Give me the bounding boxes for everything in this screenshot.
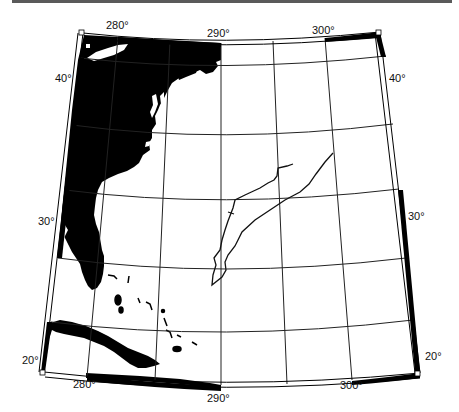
lat-label-right-40: 40°	[389, 72, 406, 84]
lon-label-bottom-290: 290°	[207, 392, 230, 404]
bahamas-islands	[108, 275, 197, 352]
map-canvas	[0, 0, 459, 412]
lon-label-top-290: 290°	[207, 27, 230, 39]
lon-label-top-280: 280°	[106, 19, 129, 31]
lake-ontario-notch	[86, 44, 90, 48]
lat-label-left-20: 20°	[22, 354, 39, 366]
lon-label-bottom-280: 280°	[73, 378, 96, 390]
lat-label-right-20: 20°	[425, 350, 442, 362]
lat-label-left-30: 30°	[38, 215, 55, 227]
lat-label-left-40: 40°	[55, 72, 72, 84]
lon-label-top-300: 300°	[312, 24, 335, 36]
lat-label-right-30: 30°	[408, 210, 425, 222]
land-north-america	[61, 35, 221, 290]
lon-label-bottom-300: 300°	[340, 379, 363, 391]
ship-track	[212, 153, 333, 285]
